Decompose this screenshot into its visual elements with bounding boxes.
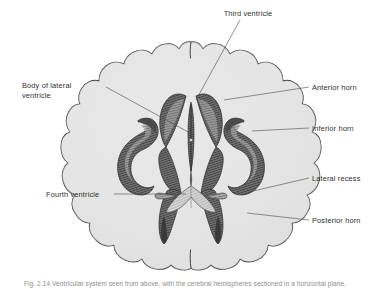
label-lateral-recess: Lateral recess <box>312 174 361 183</box>
figure-caption: Fig. 2.14 Ventricular system seen from a… <box>24 280 346 288</box>
label-third-ventricle: Third ventricle <box>224 9 273 18</box>
brain-ventricle-diagram: Third ventricle Body of lateral ventricl… <box>0 0 383 289</box>
interthalamic-adhesion <box>189 138 192 141</box>
figure-container: Third ventricle Body of lateral ventricl… <box>0 0 383 289</box>
label-anterior-horn: Anterior horn <box>312 83 357 92</box>
label-inferior-horn: Inferior horn <box>312 124 354 133</box>
label-posterior-horn: Posterior horn <box>312 216 361 225</box>
label-fourth-ventricle: Fourth ventricle <box>46 190 99 199</box>
cerebral-aqueduct <box>190 172 192 186</box>
